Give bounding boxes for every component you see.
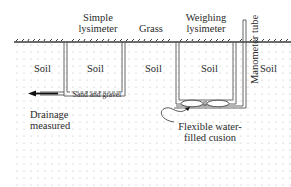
simple-lysimeter-label-line2: lysimeter — [73, 23, 123, 34]
cushion-line2: filled cusion — [174, 132, 246, 143]
soil-label: Soil — [145, 63, 162, 74]
weighing-lysimeter-label: Weighing lysimeter — [178, 12, 234, 34]
drainage-line1: Drainage — [30, 109, 86, 120]
soil-label: Soil — [87, 63, 104, 74]
manometer-tube-label: Manometer tube — [249, 12, 260, 88]
drainage-line2: measured — [30, 120, 86, 131]
soil-label: Soil — [201, 63, 218, 74]
soil-label: Soil — [34, 63, 51, 74]
sand-and-gravel-label: Sand and gravel — [72, 89, 122, 100]
lysimeter-diagram: Simple lysimeter Grass Weighing lysimete… — [0, 0, 291, 187]
soil-label: Soil — [260, 63, 277, 74]
grass-label: Grass — [133, 23, 169, 34]
drainage-measured-label: Drainage measured — [30, 109, 86, 131]
weighing-lysimeter-label-line1: Weighing — [178, 12, 234, 23]
cushion-line1: Flexible water- — [174, 121, 246, 132]
simple-lysimeter-label: Simple lysimeter — [73, 12, 123, 34]
weighing-lysimeter-label-line2: lysimeter — [178, 23, 234, 34]
cushion-label: Flexible water- filled cusion — [174, 121, 246, 143]
simple-lysimeter-label-line1: Simple — [73, 12, 123, 23]
